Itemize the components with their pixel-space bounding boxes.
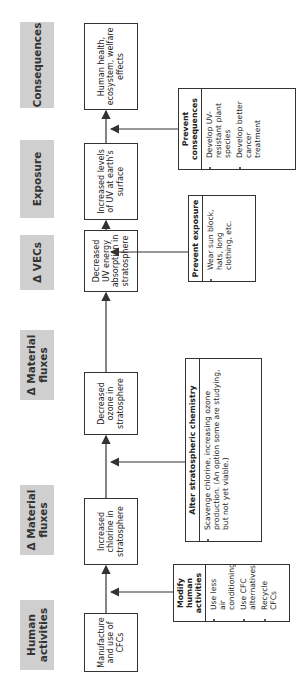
intervention-item: Develop better cancer treatment [235,92,262,158]
intervention-item: Scavenge chlorine, increasing ozone prod… [203,362,230,530]
intervention-prevent-consequences: Prevent consequences Develop UV-resistan… [178,88,296,170]
intervention-title: Prevent exposure [189,196,203,281]
intervention-title: Modify human activities [174,565,206,621]
intervention-item: Recycle CFCs [260,568,278,610]
intervention-list: Develop UV-resistant plant species Devel… [202,89,268,169]
intervention-item: Wear sun block, hats, long clothing, etc… [206,199,233,270]
intervention-title: Prevent consequences [179,89,202,169]
intervention-list: Wear sun block, hats, long clothing, etc… [203,196,239,281]
intervention-alter-stratospheric-chemistry: Alter stratospheric chemistry Scavenge c… [185,358,262,542]
intervention-item: Develop UV-resistant plant species [205,92,232,158]
intervention-list: Scavenge chlorine, increasing ozone prod… [200,359,236,541]
intervention-item: Use CFC alternatives [239,568,257,610]
intervention-title: Alter stratospheric chemistry [186,359,200,541]
intervention-list: Use less air conditioning Use CFC altern… [206,565,284,621]
intervention-item: Use less air conditioning [209,568,236,610]
intervention-modify-human-activities: Modify human activities Use less air con… [173,564,290,622]
ozone-causal-chain-diagram: Human activities Δ Material fluxes Δ Mat… [0,0,304,692]
intervention-prevent-exposure: Prevent exposure Wear sun block, hats, l… [188,195,256,282]
